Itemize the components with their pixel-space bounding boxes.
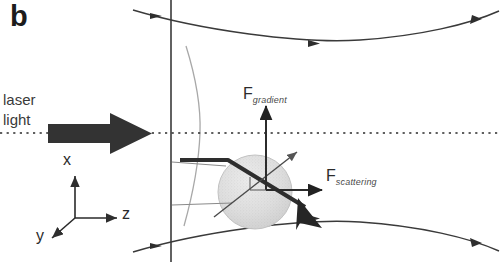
optical-trap-figure: b laser light x z y Fgradient Fscatterin…	[0, 0, 500, 262]
laser-label-line2: light	[3, 112, 31, 127]
force-scattering-symbol: F	[326, 167, 336, 184]
axis-z-label: z	[122, 206, 130, 222]
panel-label: b	[10, 2, 27, 31]
beam-arrowhead-lower-right	[470, 238, 482, 247]
refracted-ray-exit-arrowhead	[296, 198, 322, 230]
beam-arrowhead-upper-right	[470, 15, 482, 24]
force-gradient-subscript: gradient	[253, 95, 287, 105]
intensity-profile-curve	[184, 46, 200, 226]
incident-ray-upper-thin	[172, 162, 226, 166]
laser-beam-block-arrow	[48, 113, 152, 154]
figure-canvas	[0, 0, 500, 262]
force-gradient-symbol: F	[243, 85, 253, 102]
force-scattering-label: Fscattering	[326, 168, 377, 187]
force-gradient-label: Fgradient	[243, 86, 287, 105]
force-scattering-subscript: scattering	[336, 177, 377, 187]
axis-y-label: y	[36, 228, 44, 244]
laser-label-line1: laser	[3, 92, 36, 107]
axis-y-arrow	[52, 218, 75, 238]
axis-x-label: x	[63, 152, 71, 168]
beam-envelope-upper	[133, 10, 499, 41]
